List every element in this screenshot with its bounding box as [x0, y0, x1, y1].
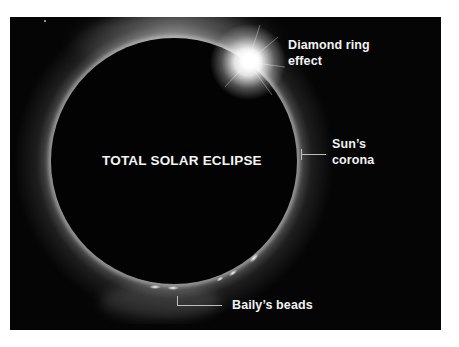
- label-bailys-beads: Baily’s beads: [232, 297, 313, 313]
- beads-leader-line: [177, 305, 222, 306]
- star-dot: [44, 20, 46, 22]
- corona-bottom-glow: [100, 284, 220, 320]
- label-diamond-ring-line1: Diamond ring: [288, 37, 370, 53]
- diagram-title: TOTAL SOLAR ECLIPSE: [102, 153, 262, 168]
- label-suns-corona-line1: Sun’s: [332, 136, 374, 152]
- label-diamond-ring-line2: effect: [288, 53, 370, 69]
- eclipse-diagram-panel: TOTAL SOLAR ECLIPSE Diamond ring effect …: [10, 17, 441, 330]
- label-suns-corona: Sun’s corona: [332, 136, 374, 168]
- corona-leader-line: [301, 154, 326, 155]
- label-suns-corona-line2: corona: [332, 152, 374, 168]
- diamond-ring-flare: [210, 24, 286, 100]
- eclipse-illustration: [10, 17, 441, 330]
- label-diamond-ring: Diamond ring effect: [288, 37, 370, 69]
